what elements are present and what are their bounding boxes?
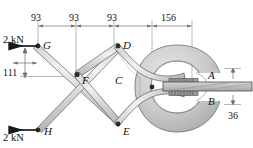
joint-label-G: G xyxy=(43,40,51,51)
force-arrows xyxy=(10,46,38,130)
joint-label-B: B xyxy=(208,96,215,107)
joint-label-E: E xyxy=(123,126,130,137)
dimension-label-36: 36 xyxy=(228,111,238,121)
joint-label-F: F xyxy=(82,75,89,86)
dimension-label-93-1: 93 xyxy=(31,13,41,23)
joint-label-A: A xyxy=(208,70,215,81)
dimension-label-156: 156 xyxy=(161,13,176,23)
joint-label-C: C xyxy=(115,75,122,86)
gripped-plate xyxy=(163,82,252,91)
dimension-label-93-2: 93 xyxy=(69,13,79,23)
dimension-label-93-3: 93 xyxy=(107,13,117,23)
force-label-bottom: 2 kN xyxy=(3,133,24,144)
joint-label-D: D xyxy=(123,40,131,51)
force-label-top: 2 kN xyxy=(3,35,24,46)
dimension-label-111: 111 xyxy=(3,68,17,78)
joint-label-H: H xyxy=(44,126,52,137)
